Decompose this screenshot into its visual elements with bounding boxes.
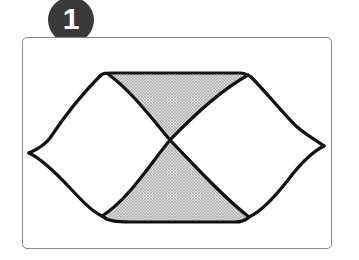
shaded-top-triangle [106, 74, 246, 140]
folded-shape-diagram [0, 0, 359, 260]
shaded-bottom-triangle [102, 140, 248, 222]
